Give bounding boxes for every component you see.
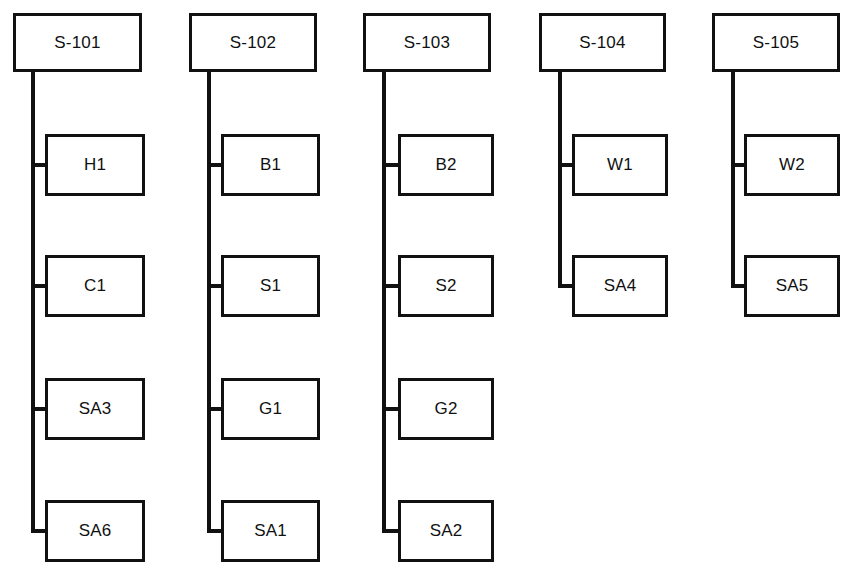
header-node-label: S-105	[753, 33, 799, 53]
child-node-box[interactable]: SA5	[744, 255, 840, 317]
header-node-box[interactable]: S-105	[712, 13, 840, 72]
child-node-box[interactable]: W2	[744, 134, 840, 196]
child-node-label: W2	[779, 155, 805, 175]
child-node-label: SA5	[776, 276, 809, 296]
trunk-line	[731, 72, 735, 288]
connector-stub	[731, 284, 744, 288]
diagram-column: S-105W2SA5	[0, 0, 856, 583]
diagram-canvas: S-101H1C1SA3SA6S-102B1S1G1SA1S-103B2S2G2…	[0, 0, 856, 583]
connector-stub	[731, 163, 744, 167]
